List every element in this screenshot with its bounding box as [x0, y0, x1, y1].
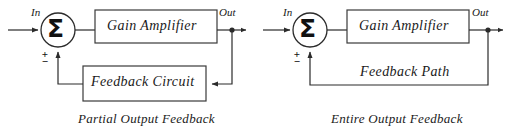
- feedback-to-sum-wire-left: [58, 52, 83, 84]
- summing-symbol-left: Σ: [47, 16, 64, 41]
- caption-right: Entire Output Feedback: [331, 112, 463, 125]
- caption-left: Partial Output Feedback: [78, 112, 215, 125]
- summing-symbol-right: Σ: [299, 16, 316, 41]
- polarity-signs-right: + −: [292, 51, 302, 65]
- figure-canvas: In Σ + − Gain Amplifier Out Feedback Cir…: [0, 0, 516, 132]
- feedback-path-label-right: Feedback Path: [360, 65, 450, 79]
- minus-sign-right: −: [292, 58, 302, 65]
- gain-amplifier-label-left: Gain Amplifier: [107, 19, 197, 33]
- polarity-signs-left: + −: [40, 51, 50, 65]
- gain-amplifier-label-right: Gain Amplifier: [359, 19, 449, 33]
- input-label-left: In: [31, 7, 40, 18]
- minus-sign-left: −: [40, 58, 50, 65]
- input-label-right: In: [283, 7, 292, 18]
- output-label-left: Out: [219, 7, 236, 18]
- output-label-right: Out: [472, 7, 489, 18]
- feedback-circuit-label-left: Feedback Circuit: [91, 75, 194, 89]
